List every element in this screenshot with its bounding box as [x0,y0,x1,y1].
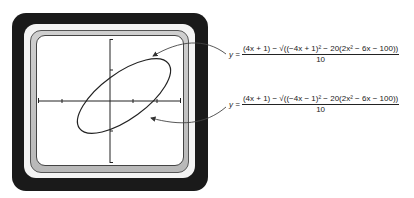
denominator: 10 [316,55,325,65]
fraction: (4x + 1) − √((−4x − 1)² − 20(2x² − 6x − … [242,94,399,115]
denominator: 10 [316,105,325,115]
equation-upper: y = (4x + 1) − √((−4x + 1)² − 20(2x² − 6… [229,44,399,65]
numerator: (4x + 1) − √((−4x − 1)² − 20(2x² − 6x − … [242,94,399,105]
arrow-to-lower-half [151,107,226,123]
equation-lhs: y = [229,100,240,109]
fraction: (4x + 1) − √((−4x + 1)² − 20(2x² − 6x − … [242,44,399,65]
numerator: (4x + 1) − √((−4x + 1)² − 20(2x² − 6x − … [242,44,399,55]
equation-lhs: y = [229,50,240,59]
ellipse-curve [66,45,182,147]
equation-lower: y = (4x + 1) − √((−4x − 1)² − 20(2x² − 6… [229,94,399,115]
arrow-to-upper-half [153,43,226,56]
